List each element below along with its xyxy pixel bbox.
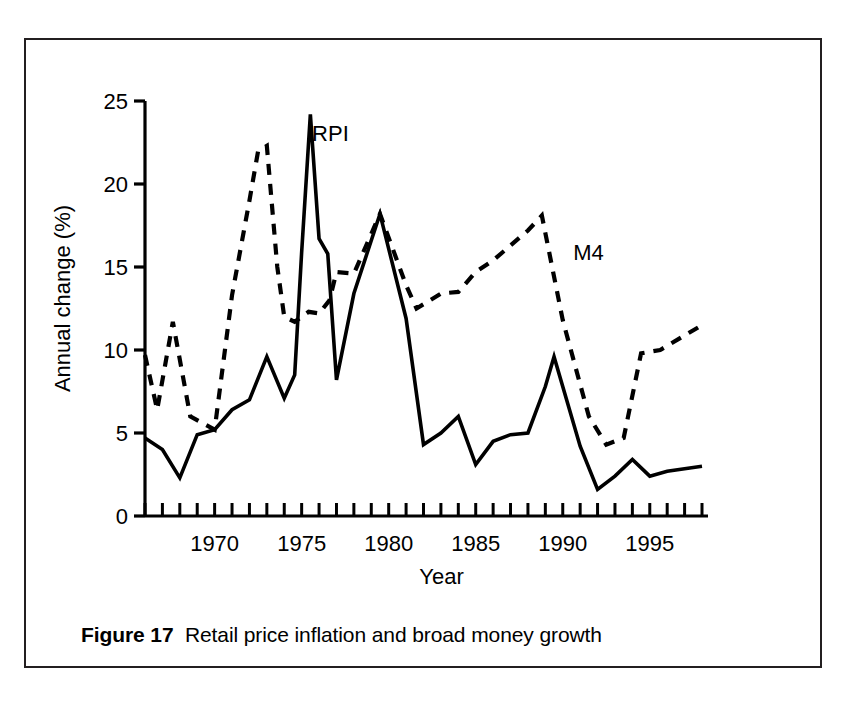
rpi-series-line <box>145 114 702 489</box>
y-axis-tick-label: 5 <box>116 421 128 446</box>
rpi-series-label: RPI <box>312 121 349 146</box>
y-axis-tick-label: 25 <box>104 89 128 114</box>
figure-caption-text <box>173 623 184 646</box>
x-axis-tick-label: 1970 <box>190 531 239 556</box>
figure-frame: 0510152025197019751980198519901995YearAn… <box>24 38 822 668</box>
y-axis-tick-label: 20 <box>104 172 128 197</box>
figure-root: 0510152025197019751980198519901995YearAn… <box>0 0 849 702</box>
y-axis-tick-label: 0 <box>116 504 128 529</box>
x-axis-tick-label: 1995 <box>625 531 674 556</box>
x-axis-tick-label: 1980 <box>364 531 413 556</box>
y-axis-tick-label: 15 <box>104 255 128 280</box>
y-axis-label: Annual change (%) <box>50 205 75 392</box>
inflation-money-growth-chart: 0510152025197019751980198519901995YearAn… <box>26 40 820 666</box>
figure-caption: Figure 17 Retail price inflation and bro… <box>81 623 602 647</box>
x-axis-tick-label: 1990 <box>538 531 587 556</box>
figure-caption-label: Figure 17 <box>81 623 173 646</box>
x-axis-tick-label: 1975 <box>277 531 326 556</box>
x-axis-label: Year <box>419 564 463 589</box>
figure-caption-body: Retail price inflation and broad money g… <box>185 623 602 646</box>
y-axis-tick-label: 10 <box>104 338 128 363</box>
m4-series-label: M4 <box>573 240 604 265</box>
m4-series-line <box>145 146 702 445</box>
x-axis-tick-label: 1985 <box>451 531 500 556</box>
